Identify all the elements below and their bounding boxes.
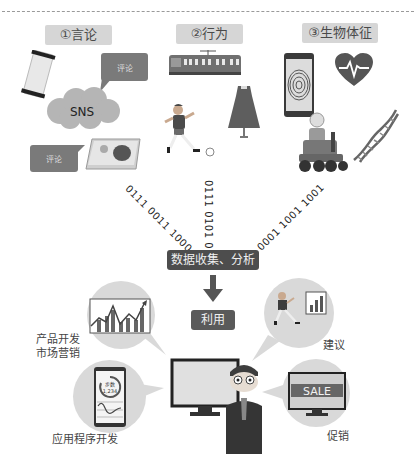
comment-bubble-bottom: 评论 (30, 145, 78, 172)
sale-monitor-icon: SALE (288, 372, 346, 418)
bubble-tail-icon (138, 333, 168, 358)
soccer-player-icon (162, 100, 222, 160)
app-dev-caption: 应用程序开发 (52, 433, 118, 447)
runner-bar-chart-icon (272, 290, 327, 330)
wheelchair-person-icon (295, 110, 355, 174)
category-biometric-label: ③生物体征 (302, 23, 378, 43)
data-collection-analysis-box: 数据收集、分析 (167, 250, 259, 270)
magazine-icon (84, 135, 144, 175)
dna-helix-icon (350, 108, 400, 163)
promotion-caption: 促销 (327, 430, 349, 444)
bubble-tail-icon (252, 335, 280, 363)
svg-text:SALE: SALE (303, 385, 331, 398)
presenter-person-icon (222, 360, 267, 456)
svg-text:1,234: 1,234 (103, 388, 117, 394)
binary-stream-right: 0001 1001 1001 (255, 182, 326, 253)
utilization-box: 利用 (191, 310, 235, 330)
arrow-down-icon (203, 275, 223, 303)
train-icon (168, 50, 243, 78)
bubble-tail-icon (140, 382, 166, 402)
dress-icon (226, 84, 262, 139)
comment-bubble-top: 评论 (101, 53, 148, 81)
sns-cloud-icon: SNS (42, 85, 122, 130)
dashed-divider (2, 11, 414, 12)
line-bar-chart-icon (89, 298, 153, 336)
heart-rate-icon (334, 52, 374, 88)
product-dev-marketing-caption: 产品开发 市场营销 (36, 333, 80, 361)
advice-caption: 建议 (323, 339, 345, 353)
binary-stream-left: 0111 0011 1000 (123, 183, 194, 254)
bubble-tail-icon (262, 384, 288, 404)
category-speech-label: ①言论 (45, 25, 112, 45)
fitness-app-phone-icon: 步数 1,234 (93, 366, 127, 428)
fingerprint-phone-icon (283, 52, 315, 118)
svg-text:SNS: SNS (70, 105, 94, 119)
svg-text:步数: 步数 (105, 381, 115, 388)
category-behavior-label: ②行为 (176, 24, 243, 44)
